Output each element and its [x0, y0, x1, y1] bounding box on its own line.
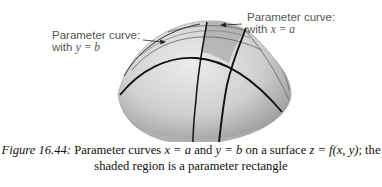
caption-line1: Figure 16.44: Parameter curves x = a and… — [0, 142, 382, 158]
figure-illustration: Parameter curve: with y = b Parameter cu… — [0, 0, 382, 142]
label-line1: Parameter curve: — [247, 11, 335, 23]
label-line1: Parameter curve: — [52, 29, 140, 41]
math-x-eq-a: x = a — [271, 23, 295, 35]
caption-line2: shaded region is a parameter rectangle — [0, 158, 382, 174]
figure-number: Figure 16.44: — [2, 143, 72, 157]
label-line2: with y = b — [52, 41, 140, 53]
math-y-eq-b: y = b — [216, 143, 243, 157]
math-z-eq-f: z = f(x, y) — [309, 143, 358, 157]
figure-caption: Figure 16.44: Parameter curves x = a and… — [0, 142, 382, 174]
label-parameter-curve-x-eq-a: Parameter curve: with x = a — [247, 11, 335, 35]
label-parameter-curve-y-eq-b: Parameter curve: with y = b — [52, 29, 140, 53]
math-y-eq-b: y = b — [76, 41, 100, 53]
math-x-eq-a: x = a — [164, 143, 191, 157]
label-line2: with x = a — [247, 23, 335, 35]
